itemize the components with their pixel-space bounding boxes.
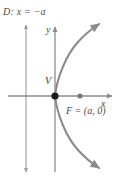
parabola-figure: D: x = −a y x V F = (a, 0)	[0, 0, 121, 182]
y-axis-label: y	[46, 25, 50, 35]
vertex-point-marker	[51, 92, 58, 99]
focus-point-marker	[77, 93, 82, 98]
figure-canvas	[0, 0, 121, 182]
vertex-label: V	[45, 76, 51, 86]
directrix-label: D: x = −a	[3, 7, 46, 17]
parabola-upper-branch	[55, 24, 99, 96]
focus-label: F = (a, 0)	[66, 106, 106, 116]
